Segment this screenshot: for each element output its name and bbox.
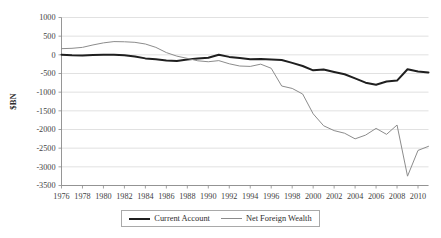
x-tick-label: 1998 [284,192,300,201]
x-tick-label: 2008 [389,192,405,201]
y-tick-label: 500 [43,32,55,41]
x-tick-label: 2010 [410,192,426,201]
y-tick-label: 0 [51,51,55,60]
y-axis-tick-labels: 10005000-500-1000-1500-2000-2500-3000-35… [36,13,55,190]
x-tick-label: 2006 [368,192,384,201]
legend-label-net-foreign-wealth: Net Foreign Wealth [246,214,312,223]
x-tick-label: 1990 [200,192,216,201]
gridlines [62,18,429,186]
y-tick-label: -500 [40,69,55,78]
y-tick-label: -2000 [36,125,55,134]
x-tick-label: 2004 [347,192,363,201]
x-tick-label: 1978 [74,192,90,201]
y-tick-label: -1000 [36,88,55,97]
chart-legend: Current Account Net Foreign Wealth [121,210,320,227]
legend-swatch-current-account [129,218,150,220]
x-tick-label: 1994 [242,192,258,201]
x-tick-label: 1986 [158,192,174,201]
x-axis-tick-labels: 1976197819801982198419861988199019921994… [53,192,426,201]
series-line-net-foreign-wealth [62,42,429,177]
y-tick-label: -3500 [36,181,55,190]
chart-plot-area: 10005000-500-1000-1500-2000-2500-3000-35… [0,0,441,238]
x-tick-label: 2002 [326,192,342,201]
chart-container: 10005000-500-1000-1500-2000-2500-3000-35… [0,0,441,238]
x-tick-label: 1976 [53,192,69,201]
legend-swatch-net-foreign-wealth [221,218,242,219]
legend-label-current-account: Current Account [154,214,210,223]
data-series [62,42,429,177]
x-tick-label: 1984 [137,192,153,201]
y-tick-label: -2500 [36,144,55,153]
y-axis-title: $BN [8,93,18,110]
x-tick-label: 2000 [305,192,321,201]
x-tick-label: 1992 [221,192,237,201]
x-tick-label: 1982 [116,192,132,201]
x-tick-label: 1988 [179,192,195,201]
y-tick-label: -1500 [36,107,55,116]
x-tick-label: 1980 [95,192,111,201]
y-tick-label: 1000 [39,13,55,22]
x-tick-label: 1996 [263,192,279,201]
series-line-current-account [62,55,429,85]
legend-item-current-account: Current Account [129,214,210,223]
y-tick-label: -3000 [36,163,55,172]
legend-item-net-foreign-wealth: Net Foreign Wealth [221,214,312,223]
